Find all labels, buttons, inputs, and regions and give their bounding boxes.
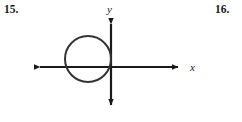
y-axis-label: y: [106, 3, 112, 15]
x-axis-label: x: [189, 61, 195, 73]
coordinate-plane-graph: x y: [0, 0, 242, 122]
figure-root: 15. 16. x y: [0, 0, 242, 122]
circle-shape: [65, 36, 111, 82]
